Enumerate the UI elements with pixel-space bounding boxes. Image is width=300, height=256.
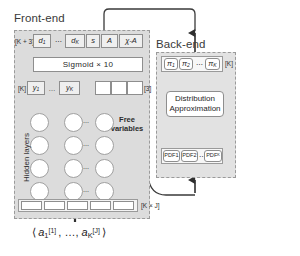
distribution-line2: Approximation: [169, 104, 220, 114]
hidden-node: [95, 136, 114, 155]
frontend-to-backend-route: [104, 9, 195, 31]
input-cell: [113, 201, 134, 210]
pi-cell-ellipsis: ⋯: [193, 58, 205, 70]
hidden-node: [30, 113, 49, 132]
input-row-size-tag: [K × J]: [141, 202, 160, 209]
hidden-node: [64, 113, 83, 132]
output-row-size-tag: [K + 3]: [15, 38, 34, 45]
output-cell-d1: d1: [33, 34, 51, 48]
output-cell-A: A: [101, 34, 118, 48]
backend-feedback-route: [148, 176, 195, 195]
figure-canvas: ⋯ Front-end [K + 3] d1 ⋯ dK s: [0, 0, 300, 256]
pi-row-size-tag: [K]: [225, 60, 233, 67]
input-cell: [67, 201, 88, 210]
free-variable-cell-3: [127, 81, 143, 95]
hidden-node: [64, 159, 83, 178]
hidden-row-ellipsis: ⋯: [83, 164, 89, 171]
input-cell: [21, 201, 42, 210]
latent-cell-ellipsis: …: [45, 81, 59, 95]
pdf-cell-1: PDF1: [163, 150, 180, 162]
hidden-node: [64, 136, 83, 155]
output-cell-s: s: [86, 34, 100, 48]
distribution-approximation-box: Distribution Approximation: [166, 91, 224, 117]
hidden-row-ellipsis: ⋯: [83, 141, 89, 148]
pdf-cell-K: PDFK: [204, 150, 222, 162]
pi-cell-2: π2: [179, 58, 193, 70]
pi-cell-K: πK: [205, 58, 220, 70]
hidden-node: [30, 159, 49, 178]
hidden-row-ellipsis: ⋯: [83, 118, 89, 125]
sigmoid-activation-bar: Sigmoid × 10: [33, 57, 143, 72]
latent-cell-y1: y1: [27, 81, 45, 95]
hidden-node: [95, 113, 114, 132]
output-cell-ellipsis: ⋯: [51, 34, 65, 48]
input-cell: [90, 201, 111, 210]
backend-title: Back-end: [156, 38, 205, 50]
frontend-title: Front-end: [14, 12, 65, 24]
distribution-line1: Distribution: [175, 94, 215, 104]
free-variable-cell-2: [111, 81, 127, 95]
output-cell-chi-A: χ-A: [119, 34, 143, 48]
latent-cell-yK: yK: [59, 81, 80, 95]
output-cell-dK: dK: [65, 34, 85, 48]
pi-cell-1: π1: [164, 58, 178, 70]
hidden-row-ellipsis: ⋯: [83, 187, 89, 194]
free-variable-cell-1: [95, 81, 111, 95]
hidden-node: [30, 136, 49, 155]
pdf-cell-2: PDF2: [181, 150, 198, 162]
hidden-layers-label: Hidden layers: [22, 133, 31, 182]
input-cell: [44, 201, 65, 210]
hidden-node: [95, 159, 114, 178]
latent-row-size-tag-right: [3]: [144, 85, 151, 92]
input-expression: ⟨ a1[1] , …, aK[J] ⟩: [32, 226, 106, 240]
latent-row-size-tag-left: [K]: [18, 85, 26, 92]
